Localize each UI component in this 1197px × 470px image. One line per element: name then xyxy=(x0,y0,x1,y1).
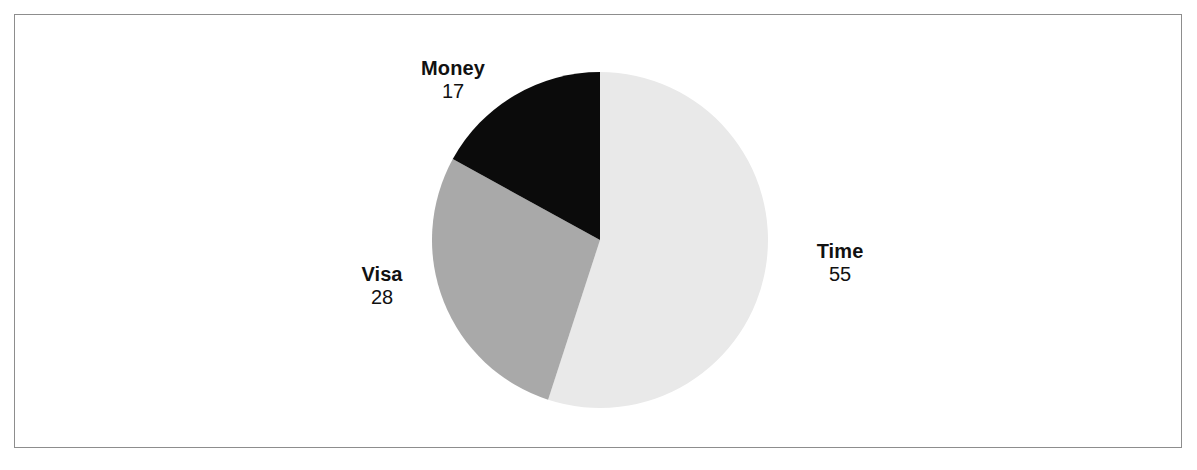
pie-slices xyxy=(432,72,768,408)
pie-label-visa: Visa 28 xyxy=(330,264,434,308)
pie-label-money-value: 17 xyxy=(388,81,518,102)
pie-label-money: Money 17 xyxy=(388,58,518,102)
pie-label-time-name: Time xyxy=(795,241,885,262)
pie-label-visa-value: 28 xyxy=(330,287,434,308)
chart-figure: Money 17 Visa 28 Time 55 xyxy=(0,0,1197,470)
pie-plot-area: Money 17 Visa 28 Time 55 xyxy=(0,0,1197,470)
pie-label-time: Time 55 xyxy=(795,241,885,285)
pie-label-money-name: Money xyxy=(388,58,518,79)
pie-label-visa-name: Visa xyxy=(330,264,434,285)
pie-label-time-value: 55 xyxy=(795,264,885,285)
pie-chart-svg xyxy=(0,0,1197,470)
